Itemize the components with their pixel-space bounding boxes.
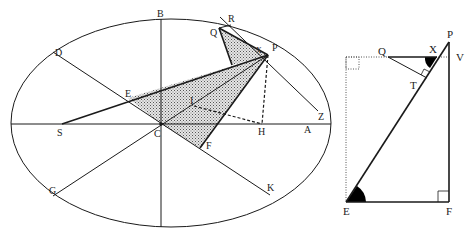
diagram-canvas: B D R Q X P I Z E S C H A F G K xyxy=(0,0,473,235)
label-g: G xyxy=(49,185,56,196)
label-h: H xyxy=(258,126,265,137)
label-c: C xyxy=(154,128,161,139)
label-f: F xyxy=(206,140,212,151)
label-e: E xyxy=(343,205,350,217)
label-e: E xyxy=(125,88,131,99)
dashed-ph xyxy=(262,55,268,124)
triangle-figure: P V Q X T E F xyxy=(343,28,464,217)
center-point-c xyxy=(159,122,163,126)
label-q: Q xyxy=(378,45,386,57)
label-d: D xyxy=(55,47,62,58)
label-s: S xyxy=(57,127,63,138)
label-x: X xyxy=(256,46,262,55)
hypotenuse-ep xyxy=(346,42,449,202)
label-q: Q xyxy=(210,27,218,38)
ellipse-figure: B D R Q X P I Z E S C H A F G K xyxy=(11,8,331,227)
label-p: P xyxy=(447,28,453,40)
label-p: P xyxy=(272,42,278,53)
label-r: R xyxy=(228,13,235,24)
label-f: F xyxy=(446,205,452,217)
label-z: Z xyxy=(318,111,324,122)
label-t: T xyxy=(410,79,417,91)
right-angle-mark-f xyxy=(438,191,449,202)
label-x: X xyxy=(429,43,437,55)
label-k: K xyxy=(267,182,275,193)
label-v: V xyxy=(456,51,464,63)
angle-e-marker xyxy=(346,186,366,202)
dotted-right-angle-mark xyxy=(346,57,359,69)
label-a: A xyxy=(304,124,312,135)
label-i: I xyxy=(190,95,193,106)
label-b: B xyxy=(157,8,164,19)
